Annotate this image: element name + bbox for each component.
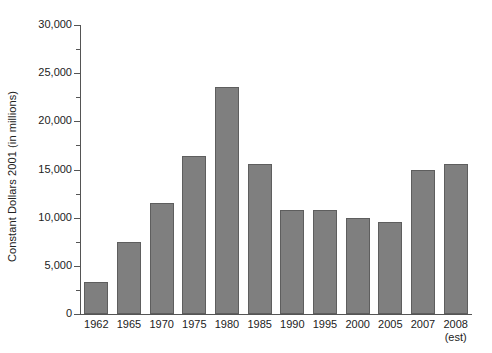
- x-tick-label: 1970: [145, 318, 178, 331]
- bar: [411, 170, 435, 315]
- bar: [248, 164, 272, 314]
- y-tick-label: 0: [12, 308, 72, 319]
- bar: [215, 87, 239, 314]
- x-axis-line: [80, 314, 472, 315]
- bar: [444, 164, 468, 314]
- x-tick-label: 1962: [80, 318, 113, 331]
- bar: [117, 242, 141, 314]
- x-tick-label: 1985: [243, 318, 276, 331]
- bars-container: [80, 25, 472, 314]
- x-tick-label: 1975: [178, 318, 211, 331]
- x-tick-label: 2008(est): [439, 318, 472, 344]
- y-tick-label: 25,000: [12, 67, 72, 78]
- bar: [313, 210, 337, 314]
- y-tick-label: 20,000: [12, 115, 72, 126]
- y-tick-label: 10,000: [12, 212, 72, 223]
- y-tick-label: 5,000: [12, 260, 72, 271]
- bar-chart: Constant Dollars 2001 (in millions) 05,0…: [0, 0, 492, 353]
- x-axis-labels: 1962196519701975198019851990199520002005…: [80, 318, 472, 352]
- x-tick-sublabel: (est): [439, 331, 472, 344]
- x-tick-label: 1980: [211, 318, 244, 331]
- x-tick-label: 1990: [276, 318, 309, 331]
- y-tick-label: 15,000: [12, 164, 72, 175]
- y-tick-label: 30,000: [12, 19, 72, 30]
- bar: [280, 210, 304, 314]
- x-tick-label: 1965: [113, 318, 146, 331]
- bar: [84, 282, 108, 314]
- x-tick-label: 2005: [374, 318, 407, 331]
- bar: [378, 222, 402, 314]
- x-tick-label: 2000: [341, 318, 374, 331]
- y-tick-major: [74, 314, 81, 315]
- bar: [346, 218, 370, 314]
- x-tick-label: 1995: [309, 318, 342, 331]
- y-axis-title: Constant Dollars 2001 (in millions): [0, 0, 24, 353]
- x-tick-label: 2007: [407, 318, 440, 331]
- bar: [150, 203, 174, 314]
- bar: [182, 156, 206, 314]
